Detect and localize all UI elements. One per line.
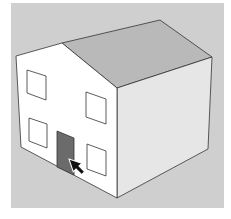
door-selected[interactable] — [57, 131, 74, 175]
model-viewport[interactable] — [0, 0, 231, 219]
